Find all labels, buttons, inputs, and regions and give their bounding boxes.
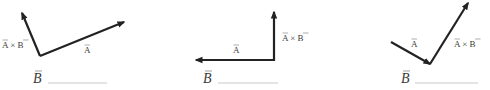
panel-2: A × B A B: [196, 12, 309, 86]
panel-1: A × B A B: [2, 13, 124, 86]
cross-product-vector: [430, 3, 468, 64]
cross-product-label: A × B: [282, 33, 309, 43]
svg-text:A × B: A × B: [2, 40, 24, 50]
svg-text:B: B: [401, 71, 410, 86]
cross-product-label: A × B: [454, 39, 481, 49]
answer-b-label: B: [33, 71, 42, 86]
svg-text:A × B: A × B: [454, 39, 476, 49]
vector-a-label: A: [84, 45, 91, 55]
svg-text:B: B: [203, 71, 212, 86]
svg-text:A: A: [411, 39, 418, 49]
svg-text:B: B: [33, 71, 42, 86]
answer-b-label: B: [401, 71, 410, 86]
vector-a-label: A: [411, 39, 418, 49]
vector-a: [40, 22, 124, 56]
svg-text:A: A: [84, 45, 91, 55]
cross-product-vector: [22, 13, 40, 56]
svg-text:A: A: [233, 45, 240, 55]
answer-b-label: B: [203, 71, 212, 86]
vector-a-label: A: [233, 45, 240, 55]
cross-product-diagram: A × B A B A × B A B: [0, 0, 490, 90]
panel-3: A A × B B: [391, 3, 481, 86]
svg-text:A × B: A × B: [282, 33, 304, 43]
cross-product-label: A × B: [2, 40, 29, 50]
